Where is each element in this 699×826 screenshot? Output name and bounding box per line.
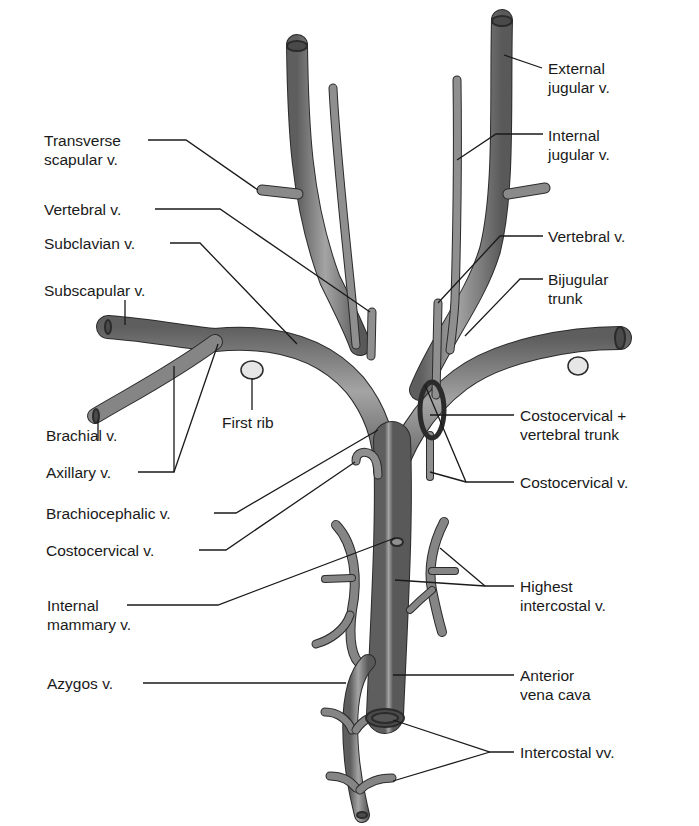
label-internal-mammary-vein: Internal mammary v. xyxy=(47,596,131,634)
label-costocervical-vertebral-trunk: Costocervical + vertebral trunk xyxy=(520,406,626,444)
label-costocervical-vein-right: Costocervical v. xyxy=(520,473,628,492)
label-vertebral-vein-right: Vertebral v. xyxy=(548,227,625,246)
left-highest-intercostal-vein xyxy=(316,525,362,665)
label-bijugular-trunk: Bijugular trunk xyxy=(548,270,608,308)
label-anterior-vena-cava: Anterior vena cava xyxy=(520,666,591,704)
right-internal-jugular-vein xyxy=(450,80,457,350)
label-subscapular-vein: Subscapular v. xyxy=(44,281,145,300)
first-rib-left-icon xyxy=(241,361,263,379)
label-costocervical-vein-left: Costocervical v. xyxy=(46,541,154,560)
label-axillary-vein: Axillary v. xyxy=(46,463,111,482)
anatomical-diagram: Transverse scapular v. Vertebral v. Subc… xyxy=(0,0,699,826)
vena-cava-lumen-icon xyxy=(372,713,398,723)
anterior-vena-cava-vessel xyxy=(385,440,393,715)
left-transverse-scapular-vein xyxy=(262,190,298,194)
label-transverse-scapular-vein: Transverse scapular v. xyxy=(44,131,121,169)
vessel-opening-icon xyxy=(105,320,111,334)
vessel-opening-icon xyxy=(287,41,307,51)
right-transverse-scapular-vein xyxy=(508,188,545,194)
left-subclavian-axillary-vein xyxy=(108,327,385,470)
left-vertebral-vein xyxy=(371,312,372,356)
vessel-opening-icon xyxy=(492,16,512,26)
label-brachial-vein: Brachial v. xyxy=(46,426,117,445)
label-first-rib: First rib xyxy=(222,413,274,432)
left-costocervical-vein xyxy=(356,452,378,475)
label-brachiocephalic-vein: Brachiocephalic v. xyxy=(46,504,171,523)
label-azygos-vein: Azygos v. xyxy=(47,674,113,693)
right-highest-intercostal-vein xyxy=(410,522,455,632)
label-external-jugular-vein: External jugular v. xyxy=(548,59,610,97)
label-subclavian-vein: Subclavian v. xyxy=(44,234,135,253)
label-intercostal-veins: Intercostal vv. xyxy=(520,743,614,762)
vessel-opening-icon xyxy=(357,812,367,818)
vessel-opening-icon xyxy=(615,327,625,349)
leader-lines xyxy=(98,55,543,781)
label-vertebral-vein-left: Vertebral v. xyxy=(44,200,121,219)
label-highest-intercostal-vein: Highest intercostal v. xyxy=(520,577,606,615)
first-rib-right-icon xyxy=(568,357,588,375)
label-internal-jugular-vein: Internal jugular v. xyxy=(548,126,610,164)
